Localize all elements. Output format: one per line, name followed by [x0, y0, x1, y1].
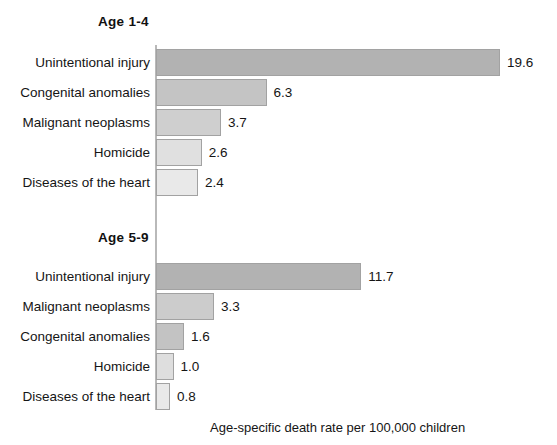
- bar: [156, 293, 214, 320]
- bar-row: Diseases of the heart 0.8: [0, 382, 557, 412]
- category-label: Malignant neoplasms: [0, 292, 150, 322]
- category-label: Diseases of the heart: [0, 382, 150, 412]
- category-label: Congenital anomalies: [0, 322, 150, 352]
- bar: [156, 383, 170, 410]
- bar-value-label: 2.6: [209, 138, 228, 168]
- bar-row: Malignant neoplasms 3.3: [0, 292, 557, 322]
- bar-row: Unintentional injury 19.6: [0, 48, 557, 78]
- bar: [156, 79, 267, 106]
- bar-value-label: 19.6: [507, 48, 533, 78]
- category-label: Homicide: [0, 138, 150, 168]
- bar: [156, 109, 221, 136]
- bar-value-label: 1.0: [181, 352, 200, 382]
- bar: [156, 169, 198, 196]
- bar-value-label: 11.7: [368, 262, 393, 292]
- bar-value-label: 3.7: [228, 108, 247, 138]
- category-label: Unintentional injury: [0, 262, 150, 292]
- bar-value-label: 0.8: [177, 382, 196, 412]
- category-label: Homicide: [0, 352, 150, 382]
- bar-value-label: 6.3: [274, 78, 293, 108]
- bar-row: Congenital anomalies 1.6: [0, 322, 557, 352]
- panel-title-age-5-9: Age 5-9: [98, 230, 149, 245]
- bar-row: Diseases of the heart 2.4: [0, 168, 557, 198]
- panel-title-age-1-4: Age 1-4: [98, 14, 149, 29]
- category-label: Malignant neoplasms: [0, 108, 150, 138]
- bar: [156, 353, 174, 380]
- bar: [156, 323, 184, 350]
- bar-row: Homicide 1.0: [0, 352, 557, 382]
- bar-row: Malignant neoplasms 3.7: [0, 108, 557, 138]
- axis-caption: Age-specific death rate per 100,000 chil…: [210, 420, 465, 435]
- bar-value-label: 1.6: [191, 322, 210, 352]
- bar-value-label: 3.3: [221, 292, 240, 322]
- bar-value-label: 2.4: [205, 168, 224, 198]
- bar: [156, 263, 361, 290]
- bar: [156, 49, 500, 76]
- category-label: Diseases of the heart: [0, 168, 150, 198]
- bar-row: Congenital anomalies 6.3: [0, 78, 557, 108]
- bar-row: Homicide 2.6: [0, 138, 557, 168]
- category-label: Unintentional injury: [0, 48, 150, 78]
- bar-row: Unintentional injury 11.7: [0, 262, 557, 292]
- death-rate-bar-chart-figure: Age 1-4 Unintentional injury 19.6 Congen…: [0, 0, 557, 445]
- category-label: Congenital anomalies: [0, 78, 150, 108]
- bar: [156, 139, 202, 166]
